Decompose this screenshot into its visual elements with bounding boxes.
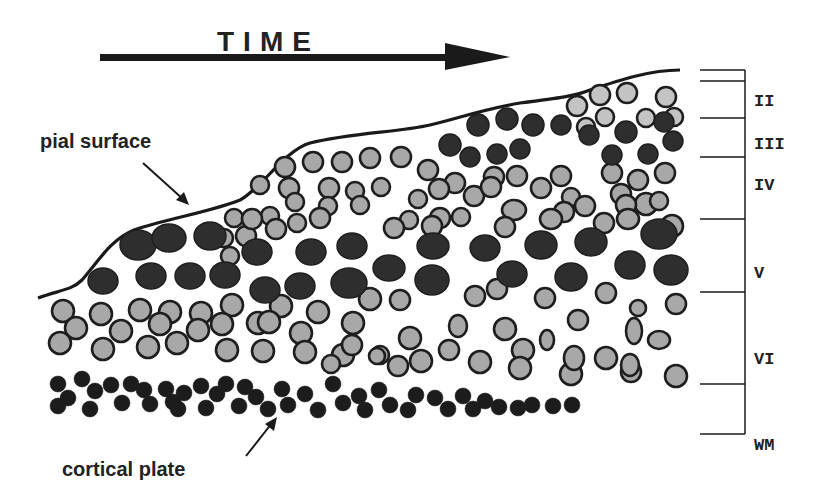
gray-neuron: [465, 286, 485, 306]
layer-label-iii: III: [754, 135, 785, 154]
pial-surface-label: pial surface: [40, 130, 151, 152]
large-dark-neuron: [250, 277, 280, 303]
cortical-plate-cell: [142, 396, 158, 412]
gray-neuron: [628, 170, 648, 190]
cortical-plate-cell: [524, 397, 540, 413]
large-dark-neuron: [654, 255, 688, 285]
cortical-plate-cell: [310, 402, 326, 418]
gray-neuron: [595, 347, 617, 369]
cortical-plate-cell: [382, 397, 398, 413]
gray-neuron: [630, 300, 646, 316]
cortical-plate-cell: [510, 400, 526, 416]
gray-neuron: [266, 219, 286, 239]
large-dark-neuron: [555, 263, 587, 291]
cortical-plate-cell: [477, 393, 493, 409]
gray-neuron: [602, 163, 622, 183]
cortical-plate-cell: [136, 382, 152, 398]
large-dark-neuron: [88, 268, 118, 294]
gray-neuron: [507, 166, 527, 186]
gray-neuron: [360, 148, 380, 168]
cortical-plate-cell: [87, 383, 103, 399]
cortical-plate-cell: [325, 376, 341, 392]
pale-neuron: [656, 87, 676, 107]
cortical-plate-label: cortical plate: [62, 458, 185, 480]
large-dark-neuron: [194, 222, 226, 250]
gray-neuron: [666, 294, 686, 314]
cortical-plate-cell: [371, 382, 387, 398]
layer-labels: IIIIIIVVVIWM: [754, 92, 785, 455]
gray-neuron: [322, 355, 340, 373]
gray-neuron: [449, 315, 467, 337]
gray-neuron: [481, 177, 501, 197]
cortical-plate-cell: [231, 398, 247, 414]
dark-neuron: [579, 125, 599, 145]
dark-neuron: [487, 144, 507, 164]
gray-neuron: [391, 147, 411, 167]
gray-neuron: [307, 301, 329, 323]
large-dark-neuron: [373, 255, 405, 281]
gray-neuron: [399, 327, 421, 349]
gray-neuron: [494, 318, 516, 340]
cortical-plate-cell: [82, 401, 98, 417]
large-dark-neuron: [615, 251, 645, 279]
gray-neuron: [617, 209, 639, 229]
large-dark-neuron: [641, 219, 677, 249]
cortical-plate-cell: [297, 386, 313, 402]
gray-neuron: [535, 288, 555, 308]
gray-neuron: [342, 335, 362, 355]
gray-neuron: [251, 176, 269, 194]
large-dark-neuron: [470, 235, 500, 261]
pale-neuron: [590, 85, 610, 105]
large-dark-neuron: [120, 230, 156, 260]
gray-neuron: [351, 196, 369, 214]
gray-neuron: [49, 332, 71, 354]
gray-neuron: [469, 351, 491, 373]
cortical-plate-cell: [491, 399, 507, 415]
gray-neuron: [452, 208, 470, 226]
gray-neuron: [540, 330, 554, 350]
large-dark-neuron: [417, 233, 449, 259]
cortical-plate-pointer-arrow: [246, 417, 277, 456]
gray-neuron: [596, 283, 616, 303]
gray-neuron: [286, 193, 304, 211]
gray-neuron: [564, 346, 584, 370]
large-dark-neuron: [296, 239, 326, 265]
gray-neuron: [303, 152, 323, 172]
layer-label-iv: IV: [754, 176, 775, 195]
gray-neuron: [429, 179, 449, 199]
cortical-plate-cell: [103, 377, 119, 393]
gray-neuron: [384, 218, 404, 238]
gray-neuron: [388, 356, 408, 376]
dark-neuron: [439, 134, 461, 156]
gray-neuron: [495, 217, 515, 237]
layer-label-vi: VI: [754, 350, 774, 369]
cortical-plate-cell: [455, 388, 471, 404]
gray-neuron: [242, 209, 262, 229]
time-arrow: TIME: [100, 26, 510, 70]
cortical-plate-cell: [114, 395, 130, 411]
cortical-plate-cell: [545, 398, 561, 414]
gray-neuron: [390, 290, 410, 310]
cortical-plate-cell: [427, 390, 443, 406]
cortical-plate-cell: [193, 378, 209, 394]
cortical-plate-cell: [408, 387, 424, 403]
gray-neuron: [137, 336, 159, 358]
cortical-plate-cell: [170, 401, 186, 417]
large-dark-neuron: [242, 239, 272, 265]
large-dark-neuron: [415, 265, 449, 295]
large-dark-neuron: [175, 263, 205, 289]
gray-neuron: [258, 311, 280, 333]
gray-neuron: [410, 350, 432, 372]
gray-neuron: [621, 354, 639, 376]
dark-neuron: [615, 121, 637, 143]
gray-neuron: [92, 338, 114, 360]
cortical-plate-cell: [74, 371, 90, 387]
large-dark-neuron: [285, 273, 315, 299]
cortical-plate-cell: [218, 376, 234, 392]
gray-neuron: [187, 319, 209, 341]
cortical-plate-cell: [198, 400, 214, 416]
gray-neuron: [252, 340, 274, 362]
dark-neuron: [460, 147, 480, 167]
large-dark-neuron: [337, 233, 367, 259]
dark-neuron: [638, 144, 658, 164]
